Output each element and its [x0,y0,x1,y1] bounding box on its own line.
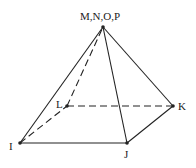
label-k: K [178,100,186,112]
vertex-j [125,141,129,145]
edge-j-apex [103,27,127,143]
vertex-l [65,104,69,108]
label-i: I [9,140,13,152]
edge-l-apex-hidden [67,27,103,106]
edge-i-apex [20,27,103,143]
label-apex: M,N,O,P [80,10,120,22]
label-l: L [56,98,63,110]
edge-k-apex [103,27,173,106]
edge-il-hidden [20,106,67,143]
vertex-k [171,104,175,108]
edge-jk [127,106,173,143]
label-j: J [124,148,129,160]
vertex-apex [101,25,105,29]
pyramid-diagram: M,N,O,P I J K L [0,0,196,168]
vertex-i [18,141,22,145]
